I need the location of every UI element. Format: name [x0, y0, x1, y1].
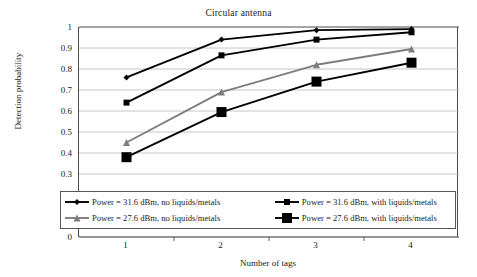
data-point-marker: [312, 77, 322, 87]
y-tick-label: 0.6: [26, 106, 72, 116]
legend-entry-series-2: Power = 31.6 dBm, with liquids/metals: [274, 195, 452, 209]
data-point-marker: [219, 52, 225, 58]
data-point-marker: [217, 107, 227, 117]
y-tick-label: 1: [26, 22, 72, 32]
data-point-marker: [407, 58, 417, 68]
y-tick-label: 0.3: [26, 169, 72, 179]
legend-label: Power = 27.6 dBm, with liquids/metals: [302, 213, 437, 223]
legend-row: Power = 27.6 dBm, no liquids/metals Powe…: [64, 210, 452, 226]
data-point-marker: [314, 27, 320, 33]
y-tick-label: 0.4: [26, 148, 72, 158]
data-point-marker: [219, 37, 225, 43]
chart-figure: Circular antenna Detection probability 0…: [0, 0, 477, 277]
legend-marker-diamond-icon: [64, 195, 90, 209]
data-point-marker: [124, 74, 130, 80]
legend-marker-triangle-icon: [64, 211, 90, 225]
legend-entry-series-3: Power = 27.6 dBm, no liquids/metals: [64, 211, 274, 225]
legend-marker-square-small-icon: [274, 195, 300, 209]
legend-marker-square-large-icon: [274, 211, 300, 225]
y-tick-label: 0.7: [26, 85, 72, 95]
legend-entry-series-4: Power = 27.6 dBm, with liquids/metals: [274, 211, 452, 225]
x-tick-label: 2: [201, 240, 241, 250]
data-point-marker: [123, 139, 130, 146]
legend-label: Power = 31.6 dBm, with liquids/metals: [302, 197, 437, 207]
y-tick-label: 0.9: [26, 43, 72, 53]
legend-row: Power = 31.6 dBm, no liquids/metals Powe…: [64, 194, 452, 210]
legend-label: Power = 31.6 dBm, no liquids/metals: [92, 197, 220, 207]
legend-label: Power = 27.6 dBm, no liquids/metals: [92, 213, 220, 223]
chart-legend: Power = 31.6 dBm, no liquids/metals Powe…: [60, 191, 456, 229]
data-point-marker: [409, 29, 415, 35]
data-point-marker: [124, 100, 130, 106]
data-point-marker: [122, 152, 132, 162]
x-axis-title: Number of tags: [78, 258, 458, 268]
x-tick-label: 1: [106, 240, 146, 250]
x-tick-label: 3: [296, 240, 336, 250]
data-point-marker: [314, 37, 320, 43]
y-tick-label: 0.5: [26, 127, 72, 137]
x-tick-label: 4: [391, 240, 431, 250]
y-tick-label: 0: [26, 232, 72, 242]
chart-title: Circular antenna: [0, 8, 477, 18]
legend-entry-series-1: Power = 31.6 dBm, no liquids/metals: [64, 195, 274, 209]
x-axis-tick-labels: 1234: [78, 240, 458, 256]
y-tick-label: 0.8: [26, 64, 72, 74]
